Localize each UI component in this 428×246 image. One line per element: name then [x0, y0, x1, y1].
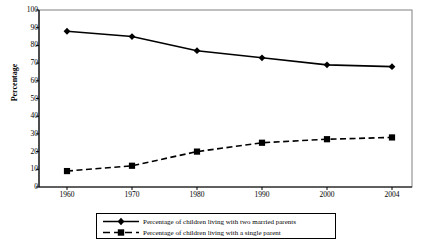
- legend-entry-1: Percentage of children living with a sin…: [101, 227, 281, 238]
- plot-area: [0, 0, 428, 246]
- series-line-1: [67, 137, 392, 171]
- data-point-marker: [129, 163, 135, 169]
- data-point-marker: [194, 47, 201, 54]
- legend-marker-diamond-icon: [101, 216, 141, 227]
- data-point-marker: [259, 54, 266, 61]
- legend: Percentage of children living with two m…: [96, 213, 336, 239]
- data-point-marker: [324, 61, 331, 68]
- data-point-marker: [324, 136, 330, 142]
- legend-entry-0: Percentage of children living with two m…: [101, 216, 296, 227]
- legend-label-0: Percentage of children living with two m…: [141, 218, 296, 226]
- data-point-marker: [64, 28, 71, 35]
- legend-label-1: Percentage of children living with a sin…: [141, 229, 281, 237]
- data-point-marker: [64, 168, 70, 174]
- data-point-marker: [259, 140, 265, 146]
- series-line-0: [67, 31, 392, 66]
- line-chart: Percentage 1009080706050403020100 196019…: [0, 0, 428, 246]
- data-point-marker: [389, 134, 395, 140]
- data-point-marker: [129, 33, 136, 40]
- legend-marker-square-icon: [101, 227, 141, 238]
- data-point-marker: [194, 149, 200, 155]
- data-point-marker: [389, 63, 396, 70]
